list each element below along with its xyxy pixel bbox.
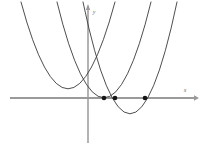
parabola-translations-figure: x y	[0, 0, 199, 146]
x-axis-label: x	[183, 87, 187, 93]
x-axis-arrowhead	[194, 95, 199, 101]
y-axis-label: y	[92, 9, 96, 15]
root-point-2	[113, 96, 118, 101]
parabola-curve-1	[21, 2, 115, 89]
parabola-curve-2	[57, 2, 151, 98]
y-axis-arrowhead	[86, 4, 90, 10]
plot-canvas: x y	[0, 0, 199, 146]
root-point-1	[102, 96, 107, 101]
root-point-3	[143, 96, 148, 101]
